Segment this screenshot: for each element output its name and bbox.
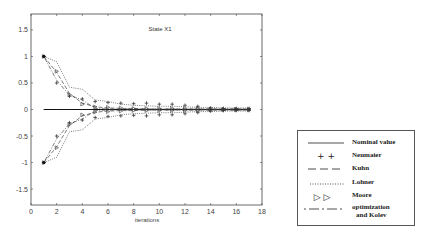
dash-dot-line-icon [304,203,348,215]
triangle-marker-icon: ▷ ▷ [304,190,348,202]
legend-label: Moore [352,191,372,199]
legend-label: Neumaier [352,151,382,159]
legend-item-kuhn: Kuhn [298,163,416,175]
x-tick-label: 18 [258,208,266,215]
plus-marker-icon: + + [304,150,348,162]
legend-item-neumaier: + + Neumaier [298,150,416,162]
chart-title: State X1 [148,26,172,32]
x-tick-label: 6 [106,208,110,215]
legend-item-moore: ▷ ▷ Moore [298,190,416,202]
svg-text:▷ ▷: ▷ ▷ [314,192,331,202]
y-tick-label: -1 [22,159,28,166]
x-tick-label: 10 [155,208,163,215]
legend-label: Nominal value [352,138,395,146]
x-axis-label: iterations [135,217,159,223]
y-tick-label: 1.5 [18,26,28,33]
y-tick-label: -0.5 [16,133,28,140]
x-tick-label: 4 [80,208,84,215]
x-tick-label: 8 [132,208,136,215]
y-tick-label: -1.5 [16,186,28,193]
legend-label-line2: and Kolev [356,211,387,219]
legend-label: Lohner [352,178,374,186]
legend-label: Kuhn [352,164,369,172]
legend-item-lohner: Lohner [298,177,416,189]
legend-item-nominal: Nominal value [298,137,416,149]
x-tick-label: 0 [29,208,33,215]
x-tick-label: 14 [207,208,215,215]
legend-label: optimization and Kolev [352,203,390,219]
legend-item-optimization-kolev: optimization and Kolev [298,203,416,223]
svg-text:+ +: + + [317,151,335,161]
y-tick-label: 1 [24,53,28,60]
dashed-line-icon [304,163,348,175]
x-tick-label: 16 [232,208,240,215]
legend: Nominal value + + Neumaier Kuhn Lohner ▷… [297,130,415,226]
y-tick-label: 0.5 [18,79,28,86]
y-tick-label: 0 [24,106,28,113]
dotted-line-icon [304,177,348,189]
x-tick-label: 2 [55,208,59,215]
legend-label-line1: optimization [352,203,390,211]
x-tick-label: 12 [181,208,189,215]
solid-line-icon [304,137,348,149]
